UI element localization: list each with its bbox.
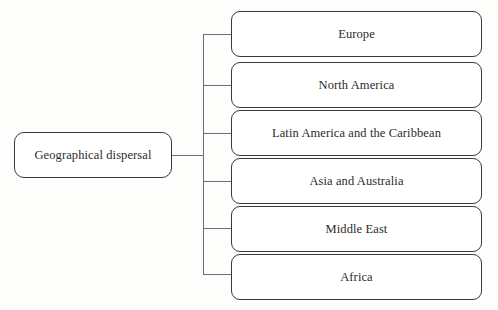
- connector-vertical-trunk: [203, 34, 204, 274]
- node-leaf-label: Africa: [340, 271, 373, 284]
- node-leaf-north-america[interactable]: North America: [231, 62, 482, 108]
- node-leaf-label: Asia and Australia: [309, 175, 403, 188]
- node-leaf-label: Latin America and the Caribbean: [272, 127, 441, 140]
- connector-branch-2: [203, 85, 232, 86]
- node-root-geographical-dispersal[interactable]: Geographical dispersal: [14, 132, 172, 178]
- connector-branch-4: [203, 181, 232, 182]
- node-leaf-label: Europe: [338, 28, 375, 41]
- connector-branch-3: [203, 133, 232, 134]
- node-leaf-label: Middle East: [326, 223, 388, 236]
- node-leaf-africa[interactable]: Africa: [231, 254, 482, 300]
- connector-branch-5: [203, 228, 232, 229]
- node-root-label: Geographical dispersal: [34, 149, 151, 162]
- connector-root-stem: [172, 155, 204, 156]
- diagram-canvas: Geographical dispersal Europe North Amer…: [0, 0, 498, 310]
- connector-branch-1: [203, 34, 232, 35]
- node-leaf-asia-and-australia[interactable]: Asia and Australia: [231, 158, 482, 204]
- node-leaf-europe[interactable]: Europe: [231, 11, 482, 57]
- node-leaf-latin-america-and-the-caribbean[interactable]: Latin America and the Caribbean: [231, 110, 482, 156]
- node-leaf-middle-east[interactable]: Middle East: [231, 206, 482, 252]
- node-leaf-label: North America: [319, 79, 395, 92]
- connector-branch-6: [203, 274, 232, 275]
